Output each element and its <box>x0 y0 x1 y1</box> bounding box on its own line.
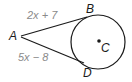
point-a-label: A <box>9 30 17 42</box>
segment-ab-length: 2x + 7 <box>27 10 57 21</box>
tangent-diagram <box>0 0 132 82</box>
segment-ad-length: 5x − 8 <box>18 52 48 63</box>
point-c-label: C <box>101 42 110 54</box>
point-b-label: B <box>86 3 94 15</box>
point-d-label: D <box>83 67 92 79</box>
